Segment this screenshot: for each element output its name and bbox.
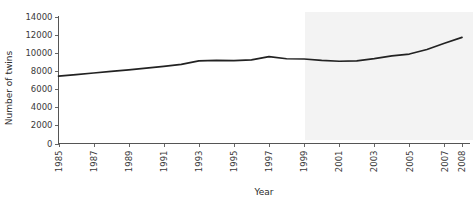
x-axis-ticks: 1985198719891991199319951997199920012003… bbox=[54, 144, 468, 173]
y-axis-title: Number of twins bbox=[4, 51, 14, 126]
y-tick-label: 2000 bbox=[31, 120, 53, 130]
x-tick-label: 1995 bbox=[229, 151, 239, 173]
y-tick-label: 14000 bbox=[25, 12, 52, 22]
watermark-block bbox=[305, 12, 473, 140]
y-tick-label: 0 bbox=[47, 139, 52, 149]
x-tick-label: 2005 bbox=[405, 151, 415, 173]
y-tick-label: 6000 bbox=[31, 84, 53, 94]
x-tick-label: 1985 bbox=[54, 151, 64, 173]
x-tick-label: 2001 bbox=[334, 151, 344, 173]
x-tick-label: 2007 bbox=[440, 151, 450, 173]
x-axis-title: Year bbox=[253, 187, 273, 197]
twins-line-chart: 02000400060008000100001200014000 1985198… bbox=[0, 0, 473, 201]
y-tick-label: 4000 bbox=[31, 102, 53, 112]
chart-container: 02000400060008000100001200014000 1985198… bbox=[0, 0, 473, 201]
x-tick-label: 2008 bbox=[457, 151, 467, 173]
y-tick-label: 8000 bbox=[31, 66, 53, 76]
x-tick-label: 1987 bbox=[89, 151, 99, 173]
y-tick-label: 10000 bbox=[25, 48, 52, 58]
y-tick-label: 12000 bbox=[25, 30, 52, 40]
x-tick-label: 2003 bbox=[369, 151, 379, 173]
x-tick-label: 1989 bbox=[124, 151, 134, 173]
y-axis-ticks: 02000400060008000100001200014000 bbox=[25, 12, 58, 149]
x-tick-label: 1993 bbox=[194, 151, 204, 173]
x-tick-label: 1991 bbox=[159, 151, 169, 173]
x-tick-label: 1999 bbox=[299, 151, 309, 173]
x-tick-label: 1997 bbox=[264, 151, 274, 173]
